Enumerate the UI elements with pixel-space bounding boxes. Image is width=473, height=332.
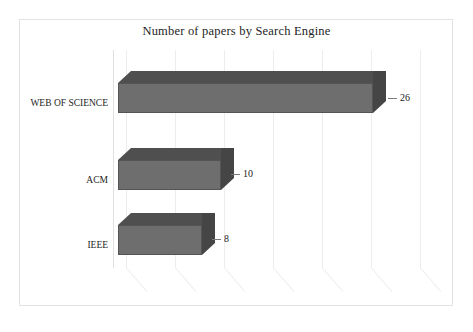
plot-area: 26 10 <box>113 50 431 282</box>
value-label-ieee: 8 <box>224 233 229 244</box>
bar-front-face <box>118 83 373 113</box>
category-label-web-of-science: WEB OF SCIENCE <box>30 98 108 108</box>
chart-screenshot: Number of papers by Search Engine WEB OF… <box>0 0 473 332</box>
category-axis-labels: WEB OF SCIENCE ACM IEEE <box>0 0 108 332</box>
value-leader-ieee <box>212 239 221 240</box>
gridline-30 <box>420 50 421 268</box>
bar-ieee[interactable] <box>118 213 215 255</box>
bar-side-shape <box>221 148 234 191</box>
bar-side-shape <box>373 71 386 114</box>
category-label-acm: ACM <box>86 175 108 185</box>
value-leader-web-of-science <box>388 98 397 99</box>
bar-acm[interactable] <box>118 148 234 190</box>
value-label-web-of-science: 26 <box>400 92 410 103</box>
bar-top-face <box>131 148 234 160</box>
bar-side-shape <box>202 213 215 256</box>
category-axis-line <box>113 50 114 268</box>
value-leader-acm <box>231 174 240 175</box>
bar-front-face <box>118 160 221 190</box>
value-label-acm: 10 <box>243 168 253 179</box>
bar-front-face <box>118 225 202 255</box>
category-label-ieee: IEEE <box>87 240 108 250</box>
bar-top-face <box>131 71 386 83</box>
bar-side-face <box>373 71 386 101</box>
bar-web-of-science[interactable] <box>118 71 386 113</box>
